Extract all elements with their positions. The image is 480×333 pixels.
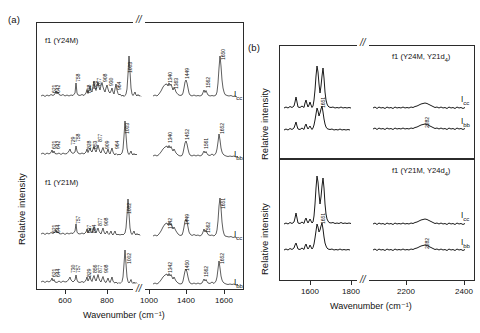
panel-a-top-axis-break: // (133, 15, 145, 25)
panel-a-tick-label-1400: 1400 (172, 296, 200, 305)
panel-a-tick-label-600: 600 (51, 296, 79, 305)
panel-a-s3-peak-1002: 1002 (126, 203, 132, 214)
panel-a-x-axis-label: Wavenumber (cm⁻¹) (83, 310, 165, 320)
panel-b-subpanel-2-title: f1 (Y21M, Y24d4) (392, 166, 450, 177)
panel-b-tick-label-2200: 2200 (392, 287, 420, 296)
panel-a-spectrum-2-trace-label: Ibb (234, 150, 243, 161)
figure-root: (a) Relative intensity // // 600 800 100… (0, 0, 480, 333)
panel-a-spectrum-1-trace-label: Icc (234, 90, 242, 101)
panel-a-s2-peak-1561: 1561 (203, 138, 209, 149)
panel-a-s4-peak-1562: 1562 (203, 266, 209, 277)
panel-b-sub1-trace-bb-right (372, 117, 470, 133)
panel-a-tick-label-800: 800 (93, 296, 121, 305)
panel-b-sub1-trace-cc-right (372, 96, 470, 112)
panel-a-s1-peak-1562: 1562 (205, 77, 211, 88)
panel-b-y-axis-label-bottom: Relative intensity (259, 203, 270, 275)
panel-a-s2-peak-642: 642 (55, 141, 61, 149)
panel-a-s2-peak-1340: 1340 (167, 132, 173, 143)
panel-a-spectrum-2-trace-right (152, 120, 242, 160)
panel-b-y-axis-label-top: Relative intensity (259, 88, 270, 160)
panel-a-s4-peak-1342: 1342 (167, 262, 173, 273)
panel-a-spectrum-1-title: f1 (Y24M) (45, 36, 78, 45)
panel-a-s2-peak-1452: 1452 (184, 129, 190, 140)
panel-a-y-axis-label: Relative intensity (16, 173, 27, 245)
panel-a-tick-1000 (149, 290, 150, 294)
panel-b-sub2-trace-bb-right (372, 238, 470, 254)
panel-b-bottom-axis-break: // (357, 275, 369, 285)
panel-b-sub1-trace-bb-left (283, 98, 355, 134)
panel-b-tick-label-1800: 1800 (337, 287, 365, 296)
panel-a-tick-label-1600: 1600 (210, 296, 238, 305)
panel-b-tick-2400 (464, 281, 465, 285)
panel-a-s2-peak-877: 877 (97, 134, 103, 142)
panel-a-s3-peak-908: 908 (103, 218, 109, 226)
panel-b-sub2-bb-peak-2282: 2282 (424, 238, 430, 249)
panel-b-x-axis-label: Wavenumber (cm⁻¹) (330, 301, 412, 311)
panel-a-spectrum-4-trace-right (152, 250, 242, 288)
panel-a-s4-peak-908: 908 (103, 265, 109, 273)
panel-b-tick-label-2400: 2400 (450, 287, 478, 296)
panel-a-tick-1400 (186, 290, 187, 294)
panel-a-s4-peak-757: 757 (75, 265, 81, 273)
panel-a-s3-peak-1651: 1651 (220, 198, 226, 209)
panel-a-tick-600 (65, 290, 66, 294)
panel-b-tick-1800 (351, 281, 352, 285)
panel-b-sub2-trace-cc-right (372, 212, 470, 228)
panel-a-tag: (a) (8, 14, 20, 25)
panel-a-spectrum-1-trace-right (152, 50, 242, 100)
panel-b-sub2-trace-cc-label: Icc (461, 211, 469, 222)
panel-a-s1-peak-1003: 1003 (127, 62, 133, 73)
panel-b-tick-1600 (310, 281, 311, 285)
panel-a-s4-peak-644: 644 (55, 269, 61, 277)
panel-a-s1-peak-1363: 1363 (173, 78, 179, 89)
panel-a-spectrum-3-title: f1 (Y21M) (45, 178, 78, 187)
panel-a-s1-peak-1449: 1449 (184, 68, 190, 79)
panel-a-s3-peak-1562: 1562 (205, 222, 211, 233)
panel-a-s2-peak-1003: 1003 (124, 123, 130, 134)
panel-a-s1-peak-930: 930 (108, 78, 114, 86)
panel-a-tick-label-1000: 1000 (135, 296, 163, 305)
panel-b-sub1-bb-peak-2282: 2282 (424, 117, 430, 128)
panel-a-tick-1600 (224, 290, 225, 294)
panel-a-s1-peak-642: 642 (55, 85, 61, 93)
panel-a-s1-peak-1650: 1650 (220, 49, 226, 60)
panel-a-s3-peak-757: 757 (75, 216, 81, 224)
panel-b-sub2-trace-bb-label: Ibb (461, 238, 470, 249)
panel-a-s1-peak-758: 758 (75, 74, 81, 82)
panel-a-s4-peak-1002: 1002 (126, 253, 132, 264)
panel-b-tick-label-1600: 1600 (296, 287, 324, 296)
panel-a-spectrum-3-trace-label: Icc (234, 230, 242, 241)
panel-b-top-axis-break: // (357, 38, 369, 48)
panel-b-sub2-trace-bb-left (283, 214, 355, 254)
panel-b-tag: (b) (248, 42, 260, 53)
panel-a-s1-peak-964: 964 (116, 82, 122, 90)
panel-a-s3-peak-1342: 1342 (167, 218, 173, 229)
panel-a-tick-800 (107, 290, 108, 294)
panel-a-s4-peak-1450: 1450 (184, 260, 190, 271)
panel-a-spectrum-4-trace-label: Ibb (234, 278, 243, 289)
panel-a-s3-peak-644: 644 (55, 225, 61, 233)
panel-a-s3-peak-1449: 1449 (184, 214, 190, 225)
panel-b-sub1-trace-bb-label: Ibb (461, 117, 470, 128)
panel-a-s2-peak-1652: 1652 (219, 123, 225, 134)
panel-a-s2-peak-909: 909 (104, 141, 110, 149)
panel-a-s4-peak-1652: 1652 (219, 253, 225, 264)
panel-a-s2-peak-758: 758 (75, 134, 81, 142)
panel-b-tick-2200 (406, 281, 407, 285)
panel-b-sub1-trace-cc-label: Icc (461, 95, 469, 106)
panel-b-subpanel-1-title: f1 (Y24M, Y21d4) (392, 52, 450, 63)
panel-a-s2-peak-964: 964 (114, 141, 120, 149)
panel-a-spectrum-3-trace-right (152, 196, 242, 240)
